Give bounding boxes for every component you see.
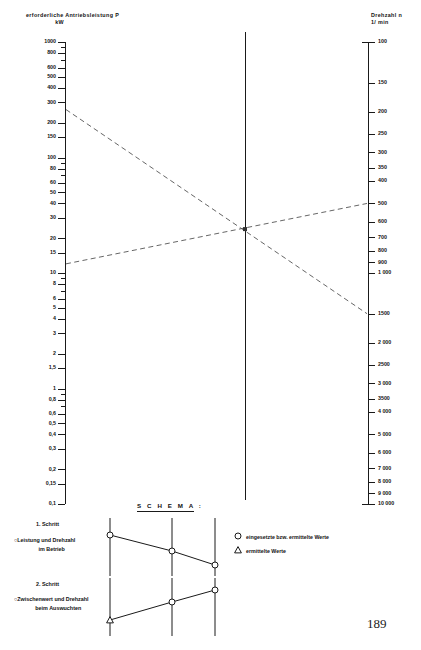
left-axis-tick-label: 0,3 <box>49 446 56 451</box>
right-axis-major-tick <box>368 168 375 169</box>
left-axis-tick-label: 500 <box>47 74 56 79</box>
schema-step1-marker <box>169 548 175 554</box>
right-axis-tick-label: 6 000 <box>378 450 391 455</box>
left-axis-major-tick <box>58 169 65 170</box>
legend-triangle-icon <box>235 547 242 553</box>
right-axis-major-tick <box>368 399 375 400</box>
right-axis-major-tick <box>368 42 375 43</box>
left-axis-title-unit: kW <box>26 19 119 26</box>
left-axis-tick-label: 80 <box>50 166 56 171</box>
right-axis-major-tick <box>368 482 375 483</box>
left-axis-tick-label: 4 <box>53 316 56 321</box>
left-axis-minor-tick <box>61 47 65 48</box>
left-axis-tick-label: 15 <box>50 250 56 255</box>
right-axis-major-tick <box>368 222 375 223</box>
right-axis-tick-label: 150 <box>378 80 387 85</box>
left-axis-major-tick <box>58 333 65 334</box>
left-axis-major-tick <box>58 203 65 204</box>
left-axis-tick-label: 1,5 <box>49 365 56 370</box>
legend-circle-icon <box>235 533 241 539</box>
right-axis-tick-label: 3 000 <box>378 381 391 386</box>
left-axis-tick-label: 0,1 <box>49 501 56 506</box>
left-axis-tick-label: 0,6 <box>49 411 56 416</box>
left-axis-major-tick <box>58 192 65 193</box>
step2-desc-line1: Zwischenwert und Drehzahl <box>17 596 88 602</box>
left-axis-major-tick <box>58 469 65 470</box>
left-axis-tick-label: 1000 <box>44 39 56 44</box>
left-axis-major-tick <box>58 137 65 138</box>
left-axis-tick-label: 800 <box>47 50 56 55</box>
right-axis-major-tick <box>368 134 375 135</box>
left-axis-tick-label: 400 <box>47 85 56 90</box>
right-axis-major-tick <box>368 343 375 344</box>
left-axis-tick-label: 300 <box>47 100 56 105</box>
schema-step2-marker-triangle <box>107 617 114 623</box>
left-axis-end-cap <box>58 504 65 505</box>
schema-step1-line <box>110 535 172 551</box>
left-axis-major-tick <box>58 354 65 355</box>
right-axis-title: Drehzahl n 1/ min <box>371 12 402 26</box>
right-axis-major-tick <box>368 262 375 263</box>
right-axis-end-cap <box>362 504 369 505</box>
right-axis-major-tick <box>368 453 375 454</box>
left-axis-major-tick <box>58 238 65 239</box>
left-axis-tick-label: 100 <box>47 155 56 160</box>
right-axis-tick-label: 200 <box>378 109 387 114</box>
schema-step1-marker <box>107 532 113 538</box>
left-axis-major-tick <box>58 88 65 89</box>
nomogram-alignment-line <box>66 203 367 263</box>
right-axis-tick-label: 5 000 <box>378 432 391 437</box>
right-axis-major-tick <box>368 365 375 366</box>
left-axis-line <box>65 42 66 504</box>
right-axis-tick-label: 1500 <box>378 311 390 316</box>
left-axis-minor-tick <box>61 60 65 61</box>
left-axis-major-tick <box>58 368 65 369</box>
right-axis-title-quantity: Drehzahl n <box>371 12 402 18</box>
left-axis-title-quantity: erforderliche Antriebsleistung P <box>26 12 119 18</box>
right-axis-major-tick <box>368 383 375 384</box>
right-axis-major-tick <box>368 181 375 182</box>
right-axis-tick-label: 2500 <box>378 362 390 367</box>
right-axis-tick-label: 3500 <box>378 396 390 401</box>
left-axis-tick-label: 10 <box>50 270 56 275</box>
right-axis-tick-label: 8 000 <box>378 479 391 484</box>
right-axis-tick-label: 4 000 <box>378 409 391 414</box>
step1-desc-line1: Leistung und Drehzahl <box>17 537 75 543</box>
right-axis-major-tick <box>368 83 375 84</box>
step1-desc-line2: im Betrieb <box>14 545 75 554</box>
left-axis-tick-label: 6 <box>53 296 56 301</box>
left-axis-tick-label: 0,8 <box>49 397 56 402</box>
left-axis-minor-tick <box>61 278 65 279</box>
right-axis-major-tick <box>368 314 375 315</box>
left-axis-tick-label: 200 <box>47 120 56 125</box>
left-axis-tick-label: 60 <box>50 180 56 185</box>
left-axis-major-tick <box>58 319 65 320</box>
left-axis-tick-label: 1 <box>53 386 56 391</box>
right-axis-tick-label: 600 <box>378 219 387 224</box>
left-axis-minor-tick <box>61 394 65 395</box>
center-axis-line <box>245 32 246 500</box>
right-axis-tick-label: 700 <box>378 235 387 240</box>
right-axis-major-tick <box>368 493 375 494</box>
right-axis-tick-label: 10 000 <box>378 501 394 506</box>
left-axis-tick-label: 0,15 <box>46 481 56 486</box>
left-axis-tick-label: 20 <box>50 236 56 241</box>
left-axis-major-tick <box>58 449 65 450</box>
left-axis-tick-label: 30 <box>50 215 56 220</box>
legend-item-triangle-label: ermittelte Werte <box>246 548 286 554</box>
right-axis-tick-label: 400 <box>378 178 387 183</box>
right-axis-major-tick <box>368 203 375 204</box>
schema-step1-line <box>172 551 215 565</box>
left-axis-major-tick <box>58 434 65 435</box>
left-axis-major-tick <box>58 414 65 415</box>
schema-heading: S C H E M A : <box>137 502 203 509</box>
right-axis-major-tick <box>368 412 375 413</box>
right-axis-major-tick <box>368 251 375 252</box>
left-axis-major-tick <box>58 53 65 54</box>
left-axis-major-tick <box>58 123 65 124</box>
left-axis-tick-label: 2 <box>53 351 56 356</box>
nomogram-page: erforderliche Antriebsleistung P kW Dreh… <box>0 0 421 650</box>
left-axis-tick-label: 8 <box>53 281 56 286</box>
left-axis-major-tick <box>58 423 65 424</box>
nomogram-alignment-line <box>66 110 367 314</box>
